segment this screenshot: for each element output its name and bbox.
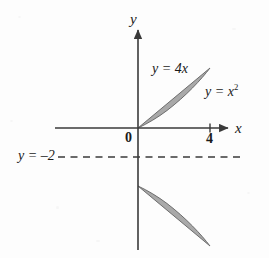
x-tick-label-4: 4 (206, 132, 213, 146)
curve-equation-text: y = x (205, 84, 234, 99)
line-equation-label: y = 4x (152, 62, 188, 76)
shaded-region-reflected (138, 186, 210, 246)
line-equation-text: y = 4x (152, 61, 188, 76)
reflection-line-label: y = –2 (18, 149, 55, 163)
plot-canvas (0, 0, 269, 258)
x-axis-label: x (235, 121, 242, 136)
math-figure: y x 0 4 y = 4x y = x2 y = –2 (0, 0, 269, 258)
curve-exponent: 2 (234, 82, 238, 92)
curve-equation-label: y = x2 (205, 85, 238, 99)
y-axis-label: y (130, 12, 137, 27)
reflection-line-text: y = –2 (18, 148, 55, 163)
origin-label: 0 (125, 131, 132, 145)
shaded-region-upper (138, 68, 210, 128)
